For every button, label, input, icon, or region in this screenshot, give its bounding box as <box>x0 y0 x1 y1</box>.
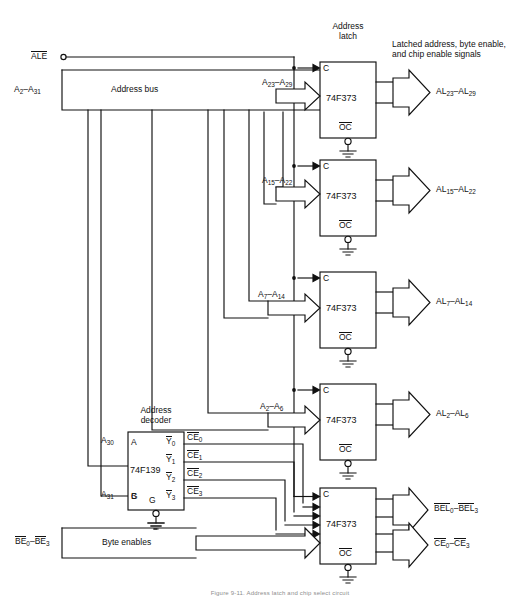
latch-2-output-label: AL15–AL22 <box>436 185 476 195</box>
latched-signals-note: Latched address, byte enable, and chip e… <box>392 40 506 59</box>
decoder-gate-pin: G <box>149 496 156 506</box>
decoder-net-ce3: CE3 <box>187 486 202 497</box>
latch-4-output-label: AL2–AL6 <box>436 409 469 419</box>
latch-2 <box>276 160 430 255</box>
bel-output-label: BEL0–BEL3 <box>434 503 478 514</box>
latch-2-part: 74F373 <box>326 191 357 201</box>
latch-2-oc-pin: OC <box>339 220 352 231</box>
latch-5 <box>196 488 428 583</box>
ale-label: ALE <box>31 51 47 62</box>
latch-5-clock-pin: C <box>323 490 329 500</box>
decoder-input-a31: A31 <box>101 490 114 500</box>
bus-branch-latch4 <box>152 110 268 430</box>
latch-4-clock-pin: C <box>323 386 329 396</box>
figure-caption: Figure 9-11. Address latch and chip sele… <box>130 590 430 597</box>
bus-branch-latch3 <box>224 110 268 318</box>
decoder-pin-y1: Y1 <box>166 454 175 465</box>
address-decoder <box>128 432 303 530</box>
byte-enables-range-label: BE0–BE3 <box>15 536 50 547</box>
address-latch-title: Address latch <box>308 22 388 41</box>
ce-output-label: CE0–CE3 <box>434 538 469 549</box>
address-bus-label: Address bus <box>111 85 158 95</box>
decoder-net-ce1: CE1 <box>187 450 202 461</box>
latch-4-input-label: A2–A6 <box>260 402 283 412</box>
address-decoder-title: Address decoder <box>116 406 196 425</box>
latch-4-oc-pin: OC <box>339 444 352 455</box>
latch-2-input-label: A15–A22 <box>262 176 292 186</box>
latch-3-oc-pin: OC <box>339 332 352 343</box>
latch-5-part: 74F373 <box>326 519 357 529</box>
latch-3-output-label: AL7–AL14 <box>436 297 472 307</box>
address-bus-range-label: A2–A31 <box>14 85 41 95</box>
decoder-pin-a: A <box>131 438 137 448</box>
decoder-input-a30: A30 <box>101 436 114 446</box>
latch-3-part: 74F373 <box>326 303 357 313</box>
decoder-part: 74F139 <box>130 465 161 475</box>
latch-1-clock-pin: C <box>323 64 329 74</box>
latch-3-clock-pin: C <box>323 274 329 284</box>
latch-1-oc-pin: OC <box>339 122 352 133</box>
latch-3-input-label: A7–A14 <box>258 290 285 300</box>
byte-enables-label: Byte enables <box>102 538 151 548</box>
latch-4-part: 74F373 <box>326 415 357 425</box>
figure-canvas: ALE A2–A31 Address bus Address latch Lat… <box>0 0 532 599</box>
latch-4 <box>268 384 430 479</box>
decoder-pin-y3: Y3 <box>166 490 175 501</box>
latch-1-input-label: A23–A29 <box>262 78 292 88</box>
latch-5-oc-pin: OC <box>339 548 352 559</box>
latch-3 <box>268 272 430 367</box>
latch-2-clock-pin: C <box>323 162 329 172</box>
decoder-pin-y0: Y0 <box>166 436 175 447</box>
latch-1-part: 74F373 <box>326 93 357 103</box>
decoder-net-ce0: CE0 <box>187 432 202 443</box>
decoder-pin-b-label: B <box>131 492 137 502</box>
decoder-net-ce2: CE2 <box>187 468 202 479</box>
decoder-pin-y2: Y2 <box>166 472 175 483</box>
latch-1-output-label: AL23–AL29 <box>436 87 476 97</box>
